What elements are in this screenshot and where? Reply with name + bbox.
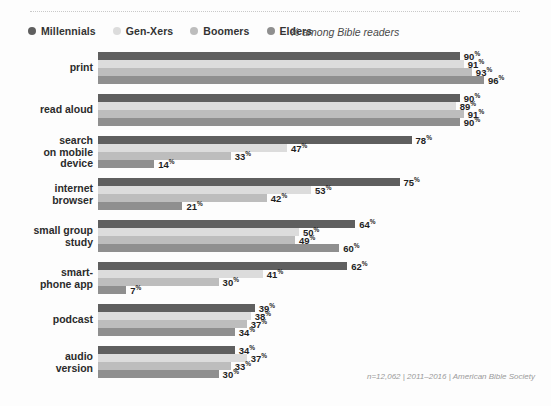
bar-value-label: 7% (126, 284, 141, 296)
category-label: audio version (0, 351, 93, 374)
bar-row[interactable]: 37% (98, 320, 551, 328)
bar-row[interactable]: 62% (98, 262, 551, 270)
bar-row[interactable]: 14% (98, 160, 551, 168)
bar[interactable] (98, 178, 400, 186)
percent-sign: % (474, 50, 480, 57)
bar-value-label: 30% (219, 368, 239, 380)
bar-row[interactable]: 38% (98, 312, 551, 320)
bar-group: print90%91%93%96% (0, 52, 551, 84)
bar-row[interactable]: 47% (98, 144, 551, 152)
category-label: print (0, 62, 93, 74)
bar-row[interactable]: 53% (98, 186, 551, 194)
legend-dot-icon (28, 27, 36, 35)
legend-item[interactable]: Millennials (28, 25, 96, 37)
bar-value-label: 34% (235, 326, 255, 338)
percent-sign: % (233, 276, 239, 283)
bar-row[interactable]: 21% (98, 202, 551, 210)
bar-value-label: 90% (460, 116, 480, 128)
bar-row[interactable]: 37% (98, 354, 551, 362)
bar-row[interactable]: 96% (98, 76, 551, 84)
bar[interactable] (98, 346, 235, 354)
percent-sign: % (277, 268, 283, 275)
percent-sign: % (265, 310, 271, 317)
bar-row[interactable]: 90% (98, 94, 551, 102)
bar-row[interactable]: 39% (98, 304, 551, 312)
category-label: read aloud (0, 104, 93, 116)
bar-row[interactable]: 90% (98, 118, 551, 126)
percent-sign: % (261, 318, 267, 325)
percent-sign: % (326, 184, 332, 191)
bar-row[interactable]: 91% (98, 110, 551, 118)
bar[interactable] (98, 52, 460, 60)
legend-dot-icon (113, 27, 121, 35)
bar[interactable] (98, 160, 154, 168)
percent-sign: % (314, 226, 320, 233)
bar[interactable] (98, 262, 347, 270)
bar[interactable] (98, 110, 464, 118)
percent-sign: % (414, 176, 420, 183)
bar-group-bars: 64%50%49%60% (98, 220, 551, 252)
bar-group: smart- phone app62%41%30%7% (0, 262, 551, 294)
percent-sign: % (135, 284, 141, 291)
bar-group: search on mobile device78%47%33%14% (0, 136, 551, 168)
bar[interactable] (98, 236, 295, 244)
bar-row[interactable]: 42% (98, 194, 551, 202)
bar-row[interactable]: 60% (98, 244, 551, 252)
bar[interactable] (98, 60, 464, 68)
percent-sign: % (486, 66, 492, 73)
bar[interactable] (98, 370, 219, 378)
legend-item[interactable]: Gen-Xers (113, 25, 174, 37)
bar[interactable] (98, 354, 247, 362)
bar-row[interactable]: 78% (98, 136, 551, 144)
bar-row[interactable]: 7% (98, 286, 551, 294)
bar-row[interactable]: 34% (98, 346, 551, 354)
legend-item-label: Gen-Xers (126, 25, 174, 37)
bar[interactable] (98, 94, 460, 102)
bar[interactable] (98, 136, 412, 144)
percent-sign: % (245, 360, 251, 367)
bar[interactable] (98, 304, 255, 312)
bar-group-bars: 62%41%30%7% (98, 262, 551, 294)
bar[interactable] (98, 76, 484, 84)
bar-value-label: 14% (154, 158, 174, 170)
percent-sign: % (426, 134, 432, 141)
bar[interactable] (98, 328, 235, 336)
bar[interactable] (98, 244, 339, 252)
percent-sign: % (169, 158, 175, 165)
percent-sign: % (249, 344, 255, 351)
bar-row[interactable]: 33% (98, 362, 551, 370)
bar-group-bars: 90%91%93%96% (98, 52, 551, 84)
bar[interactable] (98, 286, 126, 294)
bar-group: podcast39%38%37%34% (0, 304, 551, 336)
bar[interactable] (98, 102, 456, 110)
bar[interactable] (98, 202, 182, 210)
bar[interactable] (98, 312, 251, 320)
percent-sign: % (470, 100, 476, 107)
bar-row[interactable]: 64% (98, 220, 551, 228)
bar-value-number: 14 (158, 159, 169, 170)
bar-value-number: 30 (223, 369, 234, 380)
percent-sign: % (362, 260, 368, 267)
bar[interactable] (98, 362, 231, 370)
bar[interactable] (98, 278, 219, 286)
bar-row[interactable]: 41% (98, 270, 551, 278)
bar-group: small group study64%50%49%60% (0, 220, 551, 252)
category-label: small group study (0, 225, 93, 248)
bar[interactable] (98, 228, 299, 236)
bar-group-bars: 90%89%91%90% (98, 94, 551, 126)
bar[interactable] (98, 320, 247, 328)
legend-item[interactable]: Boomers (190, 25, 249, 37)
percent-sign: % (474, 92, 480, 99)
bar-row[interactable]: 30% (98, 278, 551, 286)
bar[interactable] (98, 144, 287, 152)
bar[interactable] (98, 68, 472, 76)
bar-row[interactable]: 50% (98, 228, 551, 236)
bar-row[interactable]: 34% (98, 328, 551, 336)
bar-row[interactable]: 49% (98, 236, 551, 244)
category-label: smart- phone app (0, 267, 93, 290)
bar-value-number: 60 (343, 243, 354, 254)
percent-sign: % (269, 302, 275, 309)
bar[interactable] (98, 118, 460, 126)
category-label: podcast (0, 314, 93, 326)
percent-sign: % (310, 234, 316, 241)
